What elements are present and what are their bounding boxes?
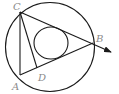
inner-circle bbox=[34, 27, 68, 59]
geometry-diagram: C B A D bbox=[0, 0, 119, 94]
label-d: D bbox=[37, 72, 46, 83]
outer-circle bbox=[6, 3, 95, 92]
label-a: A bbox=[11, 81, 19, 92]
ray-cb bbox=[20, 12, 111, 52]
label-b: B bbox=[95, 33, 103, 44]
label-c: C bbox=[13, 1, 21, 12]
